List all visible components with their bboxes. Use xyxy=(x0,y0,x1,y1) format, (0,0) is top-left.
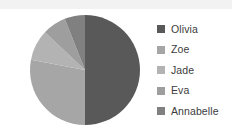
legend-swatch-icon xyxy=(157,25,165,33)
legend-swatch-icon xyxy=(157,46,165,54)
legend-item-zoe[interactable]: Zoe xyxy=(157,40,232,61)
legend-item-jade[interactable]: Jade xyxy=(157,60,232,81)
legend-item-label: Annabelle xyxy=(171,106,219,117)
pie-chart-figure: OliviaZoeJadeEvaAnnabelle xyxy=(0,0,232,137)
pie-slice-olivia[interactable] xyxy=(85,15,140,125)
legend-swatch-icon xyxy=(157,87,165,95)
legend-swatch-icon xyxy=(157,107,165,115)
legend-item-eva[interactable]: Eva xyxy=(157,81,232,102)
legend-item-label: Eva xyxy=(171,85,189,96)
chart-legend: OliviaZoeJadeEvaAnnabelle xyxy=(157,19,232,122)
legend-item-label: Jade xyxy=(171,65,194,76)
legend-swatch-icon xyxy=(157,66,165,74)
legend-item-olivia[interactable]: Olivia xyxy=(157,19,232,40)
legend-item-label: Zoe xyxy=(171,44,189,55)
legend-item-annabelle[interactable]: Annabelle xyxy=(157,101,232,122)
legend-item-label: Olivia xyxy=(171,24,198,35)
pie-slice-group xyxy=(30,15,140,125)
pie-slice-zoe[interactable] xyxy=(30,60,85,125)
